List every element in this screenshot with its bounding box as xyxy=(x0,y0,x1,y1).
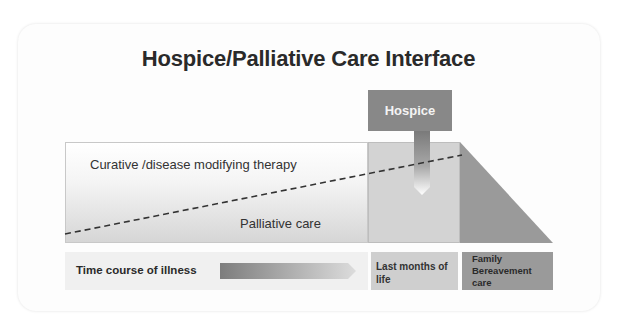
family-bereavement-label: Family Bereavement care xyxy=(462,252,553,290)
time-course-label: Time course of illness xyxy=(76,264,197,276)
diagram-title: Hospice/Palliative Care Interface xyxy=(0,46,617,72)
last-months-label: Last months of life xyxy=(371,252,458,290)
time-arrow-icon xyxy=(220,263,356,279)
bereavement-triangle xyxy=(460,142,553,243)
curative-label: Curative /disease modifying therapy xyxy=(90,157,297,172)
hospice-pointer-icon xyxy=(414,131,430,195)
palliative-label: Palliative care xyxy=(240,216,321,231)
hospice-box: Hospice xyxy=(368,90,452,131)
